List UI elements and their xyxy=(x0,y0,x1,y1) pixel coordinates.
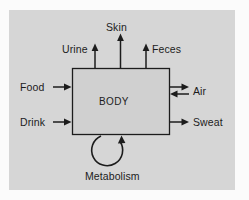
drink-arrowhead xyxy=(64,119,72,126)
feces-arrowhead xyxy=(143,44,150,52)
label-drink: Drink xyxy=(20,116,45,128)
skin-arrowhead xyxy=(117,34,124,42)
food-arrowhead xyxy=(64,84,72,91)
label-air: Air xyxy=(193,85,206,97)
sweat-arrowhead xyxy=(182,119,190,126)
label-feces: Feces xyxy=(152,43,181,55)
air-arrow-in-head xyxy=(170,91,178,98)
label-sweat: Sweat xyxy=(193,116,223,128)
metabolism-loop-path xyxy=(92,136,123,166)
diagram-screenshot: Skin Urine Feces Food Drink Air Sweat BO… xyxy=(0,0,249,200)
label-body: BODY xyxy=(99,96,129,107)
air-arrow-out-head xyxy=(182,84,190,91)
urine-arrowhead xyxy=(92,44,99,52)
metabolism-arrowhead xyxy=(118,136,126,144)
label-urine: Urine xyxy=(62,43,88,55)
label-metabolism: Metabolism xyxy=(85,170,140,182)
label-food: Food xyxy=(20,81,44,93)
label-skin: Skin xyxy=(106,21,127,33)
